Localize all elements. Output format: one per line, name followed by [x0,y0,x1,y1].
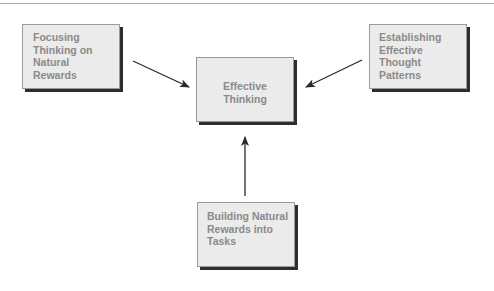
node-establishing-patterns: Establishing Effective Thought Patterns [369,24,467,89]
node-label: Effective Thinking [197,58,293,105]
node-focusing-thinking: Focusing Thinking on Natural Rewards [22,24,120,89]
node-label: Establishing Effective Thought Patterns [370,25,466,81]
node-label: Building Natural Rewards into Tasks [198,203,294,248]
top-rule [0,3,494,4]
node-building-rewards: Building Natural Rewards into Tasks [197,202,295,267]
node-label: Focusing Thinking on Natural Rewards [23,25,119,81]
arrow-establishing-to-effective [306,60,362,87]
node-effective-thinking: Effective Thinking [196,57,294,122]
arrow-focusing-to-effective [133,61,189,87]
